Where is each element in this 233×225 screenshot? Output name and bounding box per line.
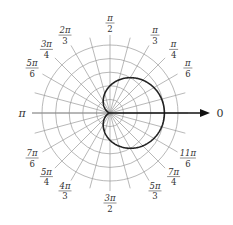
- angle-label-pi: π: [17, 107, 26, 120]
- angle-label-numerator: 5π: [150, 181, 161, 191]
- angle-label-denominator: 4: [44, 177, 49, 187]
- grid-ray: [110, 113, 185, 133]
- angle-label-denominator: 4: [171, 177, 176, 187]
- angle-label-denominator: 3: [152, 36, 157, 46]
- angle-label-denominator: 2: [107, 24, 112, 34]
- grid-ray: [90, 38, 110, 113]
- angle-label-numerator: 3π: [41, 39, 52, 49]
- angle-label-numerator: 7π: [168, 167, 179, 177]
- angle-label-denominator: 4: [44, 50, 49, 60]
- polar-axis-label: 0: [217, 107, 224, 120]
- grid-ray: [110, 38, 130, 113]
- angle-label-pi-over-3: π3: [151, 25, 160, 46]
- angle-label-denominator: 6: [29, 159, 34, 169]
- angle-label-numerator: 5π: [27, 58, 38, 68]
- angle-label-numerator: 7π: [27, 148, 38, 158]
- angle-label-7pi-over-6: 7π6: [26, 148, 39, 169]
- angle-label-5pi-over-3: 5π3: [149, 181, 162, 202]
- angle-label-numerator: 3π: [105, 193, 116, 203]
- polar-plot: 0 π2π3π4π62π33π45π6π7π65π44π33π25π37π411…: [0, 0, 233, 225]
- grid-ray: [35, 93, 110, 113]
- angle-label-denominator: 3: [62, 191, 67, 201]
- angle-label-numerator: 5π: [41, 167, 52, 177]
- angle-label-denominator: 3: [62, 36, 67, 46]
- angle-label-7pi-over-4: 7π4: [167, 167, 180, 188]
- grid-ray: [42, 113, 110, 152]
- angle-label-5pi-over-4: 5π4: [40, 167, 53, 188]
- angle-label-11pi-over-6: 11π6: [180, 148, 197, 169]
- grid-ray: [71, 113, 110, 181]
- angle-label-2pi-over-3: 2π3: [59, 25, 72, 46]
- grid-ray: [110, 45, 149, 113]
- angle-label-numerator: π: [151, 25, 158, 35]
- angle-label-denominator: 6: [185, 159, 190, 169]
- angle-label-numerator: 11π: [180, 148, 197, 158]
- angle-label-3pi-over-4: 3π4: [40, 39, 53, 60]
- grid-ray: [110, 113, 149, 181]
- grid-ray: [42, 74, 110, 113]
- grid-ray: [35, 113, 110, 133]
- angle-label-pi-over-2: π2: [106, 13, 115, 34]
- angle-label-numerator: π: [170, 39, 177, 49]
- angle-label-numerator: 4π: [59, 181, 71, 191]
- angle-label-denominator: 4: [171, 50, 176, 60]
- angle-label-denominator: 2: [107, 204, 112, 214]
- angle-label-pi-over-6: π6: [183, 58, 192, 79]
- grid-ray: [71, 45, 110, 113]
- angle-label-denominator: 3: [152, 191, 157, 201]
- grid-ray: [90, 113, 110, 188]
- angle-label-numerator: π: [184, 58, 191, 68]
- angle-label-4pi-over-3: 4π3: [59, 181, 72, 202]
- angle-label-numerator: 2π: [59, 25, 71, 35]
- grid-ray: [110, 113, 130, 188]
- angle-label-pi-over-4: π4: [169, 39, 178, 60]
- angle-label-denominator: 6: [185, 69, 190, 79]
- angle-label-5pi-over-6: 5π6: [26, 58, 39, 79]
- angle-label-3pi-over-2: 3π2: [104, 193, 117, 214]
- grid-ray: [110, 93, 185, 113]
- angle-label-numerator: π: [106, 13, 113, 23]
- arrowhead-icon: [200, 109, 210, 117]
- angle-label-text: π: [17, 107, 26, 120]
- angle-label-denominator: 6: [29, 69, 34, 79]
